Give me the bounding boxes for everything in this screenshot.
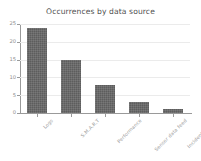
x-tick-label: Incident tickets <box>186 118 201 149</box>
y-tick-label: 0 <box>0 110 16 115</box>
x-tick-mark <box>139 114 140 117</box>
bar[interactable] <box>27 28 47 113</box>
chart-title: Occurrences by data source <box>0 7 201 16</box>
y-tick-label: 15 <box>0 57 16 62</box>
y-tick-label: 25 <box>0 21 16 26</box>
x-tick-mark <box>105 114 106 117</box>
bar-chart: Occurrences by data source 0510152025 Lo… <box>0 0 201 161</box>
x-tick-label: S.M.A.R.T <box>80 118 100 138</box>
x-tick-label: Logs <box>42 118 54 130</box>
y-tick-label: 20 <box>0 39 16 44</box>
x-tick-label: Performance <box>116 118 142 144</box>
x-tick-mark <box>173 114 174 117</box>
bar[interactable] <box>129 102 149 113</box>
bar[interactable] <box>95 85 115 113</box>
x-tick-label: Sensor data feed <box>154 118 188 152</box>
bar[interactable] <box>61 60 81 113</box>
y-tick-mark <box>17 113 20 114</box>
plot-area <box>20 24 190 113</box>
y-tick-label: 10 <box>0 75 16 80</box>
x-tick-mark <box>37 114 38 117</box>
x-tick-mark <box>71 114 72 117</box>
x-axis-line <box>20 113 192 114</box>
y-tick-label: 5 <box>0 93 16 98</box>
bar[interactable] <box>163 109 183 113</box>
